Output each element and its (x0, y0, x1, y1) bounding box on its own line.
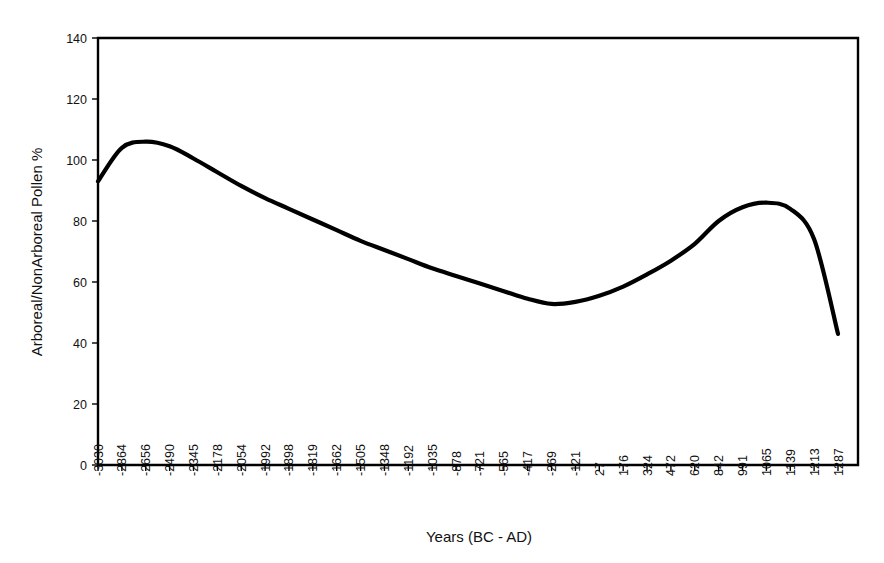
y-tick-label: 40 (73, 337, 87, 351)
x-tick-label: -121 (569, 451, 583, 476)
x-tick-label: -1898 (282, 444, 296, 476)
x-tick-label: -3030 (92, 444, 106, 476)
y-tick-label: 60 (73, 276, 87, 290)
x-tick-label: 842 (712, 455, 726, 476)
y-tick-label: 120 (66, 93, 87, 107)
x-tick-label: -1035 (426, 444, 440, 476)
y-tick-label: 140 (66, 32, 87, 46)
x-tick-label: 1065 (760, 448, 774, 476)
x-tick-label: -2054 (235, 444, 249, 476)
x-tick-label: -1992 (259, 444, 273, 476)
x-tick-label: -721 (473, 451, 487, 476)
x-tick-label: -1192 (402, 445, 416, 476)
x-tick-label: 472 (664, 455, 678, 476)
x-tick-label: -2656 (139, 444, 153, 476)
x-tick-label: -1505 (354, 444, 368, 476)
x-tick-label: -2490 (163, 444, 177, 476)
x-tick-label: 176 (617, 455, 631, 476)
x-tick-label: -878 (450, 451, 464, 476)
x-tick-label: -269 (545, 451, 559, 476)
y-tick-label: 80 (73, 215, 87, 229)
x-tick-label: -1662 (330, 444, 344, 476)
x-tick-label: -417 (521, 451, 535, 476)
chart-figure: 020406080100120140 -3030-2864-2656-2490-… (0, 0, 884, 563)
x-tick-label: 27 (593, 462, 607, 476)
x-tick-label: -1819 (306, 444, 320, 476)
x-tick-label: 324 (641, 455, 655, 476)
y-tick-label: 20 (73, 398, 87, 412)
x-tick-label: 991 (736, 455, 750, 476)
y-axis-title: Arboreal/NonArboreal Pollen % (28, 148, 45, 356)
chart-background (0, 0, 884, 563)
y-tick-label: 0 (80, 459, 87, 473)
x-tick-label: -565 (497, 451, 511, 476)
x-tick-label: 1139 (784, 449, 798, 476)
x-tick-label: -2864 (115, 444, 129, 476)
x-tick-label: -2178 (211, 444, 225, 476)
chart-canvas: 020406080100120140 -3030-2864-2656-2490-… (0, 0, 884, 563)
x-tick-label: 620 (688, 455, 702, 476)
x-tick-label: 1213 (808, 448, 822, 476)
x-tick-label: 1287 (832, 448, 846, 476)
x-axis-title: Years (BC - AD) (426, 528, 532, 545)
x-tick-label: -1348 (378, 444, 392, 476)
y-tick-label: 100 (66, 154, 87, 168)
x-tick-label: -2345 (187, 444, 201, 476)
